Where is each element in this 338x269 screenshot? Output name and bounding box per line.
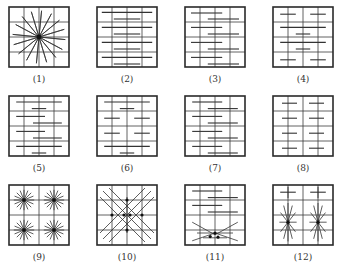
panel-12 xyxy=(273,185,333,245)
panel-8 xyxy=(273,96,333,156)
panel-9 xyxy=(9,185,69,245)
panel-label: (12) xyxy=(273,252,333,262)
panel-label: (5) xyxy=(9,163,69,173)
panel-3 xyxy=(185,7,245,67)
panel-label: (11) xyxy=(185,252,245,262)
panel-label: (6) xyxy=(97,163,157,173)
panel-10 xyxy=(97,185,157,245)
panel-4 xyxy=(273,7,333,67)
panel-11 xyxy=(185,185,245,245)
panel-2 xyxy=(97,7,157,67)
panel-label: (8) xyxy=(273,163,333,173)
panel-7 xyxy=(185,96,245,156)
panel-label: (1) xyxy=(9,74,69,84)
panel-label: (4) xyxy=(273,74,333,84)
panel-label: (2) xyxy=(97,74,157,84)
panel-5 xyxy=(9,96,69,156)
panel-label: (9) xyxy=(9,252,69,262)
panel-6 xyxy=(97,96,157,156)
panel-1 xyxy=(9,7,69,67)
diagram-canvas xyxy=(0,0,338,269)
panel-label: (10) xyxy=(97,252,157,262)
panel-label: (3) xyxy=(185,74,245,84)
panel-label: (7) xyxy=(185,163,245,173)
